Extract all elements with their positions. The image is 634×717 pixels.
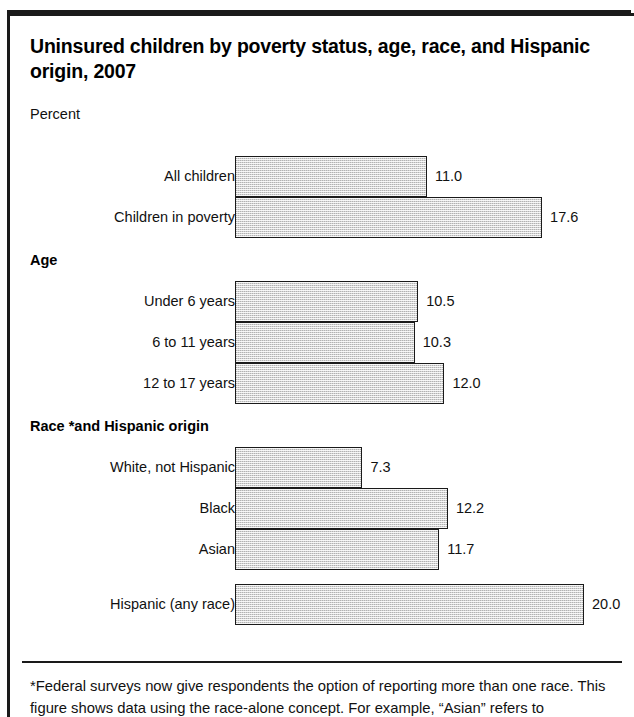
bar-row: All children11.0: [10, 156, 634, 197]
bar-category-label: All children: [164, 156, 235, 197]
bar-rect: [235, 488, 448, 529]
bar-rect: [235, 281, 418, 322]
bar-value-label: 20.0: [592, 584, 620, 625]
bar-value-label: 10.3: [423, 322, 451, 363]
bar-row: Black12.2: [10, 488, 634, 529]
bar-rect: [235, 156, 427, 197]
chart-figure: Uninsured children by poverty status, ag…: [7, 10, 631, 717]
bar-rect: [235, 584, 584, 625]
bar-rect: [235, 363, 444, 404]
bar-rect: [235, 197, 542, 238]
bar-category-label: Children in poverty: [114, 197, 235, 238]
bar-category-label: 6 to 11 years: [152, 322, 235, 363]
bar-category-label: Under 6 years: [144, 281, 235, 322]
bar-rect: [235, 529, 439, 570]
bar-row: Asian11.7: [10, 529, 634, 570]
bar-rect: [235, 322, 415, 363]
bar-value-label: 7.3: [370, 447, 390, 488]
bar-value-label: 11.7: [447, 529, 474, 570]
group-header: Age: [30, 252, 57, 268]
bar-plot-area: All children11.0Children in poverty17.6A…: [10, 13, 634, 717]
bar-row: Under 6 years10.5: [10, 281, 634, 322]
bar-row: White, not Hispanic7.3: [10, 447, 634, 488]
bar-rect: [235, 447, 362, 488]
bar-value-label: 17.6: [550, 197, 578, 238]
bar-category-label: White, not Hispanic: [110, 447, 235, 488]
bar-category-label: Asian: [199, 529, 235, 570]
bar-value-label: 10.5: [426, 281, 454, 322]
bar-value-label: 12.0: [452, 363, 480, 404]
group-header: Race *and Hispanic origin: [30, 418, 209, 434]
bar-row: 6 to 11 years10.3: [10, 322, 634, 363]
bar-category-label: Hispanic (any race): [110, 584, 235, 625]
chart-footnote: *Federal surveys now give respondents th…: [30, 675, 620, 717]
footnote-divider: [22, 661, 622, 663]
bar-value-label: 11.0: [435, 156, 462, 197]
bar-row: Children in poverty17.6: [10, 197, 634, 238]
bar-category-label: Black: [200, 488, 235, 529]
bar-category-label: 12 to 17 years: [143, 363, 235, 404]
bar-value-label: 12.2: [456, 488, 484, 529]
bar-row: Hispanic (any race)20.0: [10, 584, 634, 625]
bar-row: 12 to 17 years12.0: [10, 363, 634, 404]
